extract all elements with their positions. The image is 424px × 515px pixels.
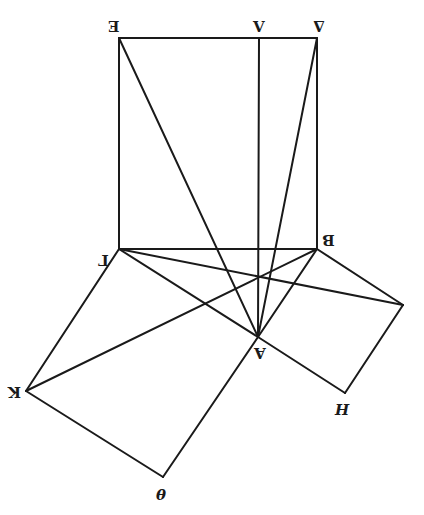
label-K: K xyxy=(8,384,21,399)
segment-B-K xyxy=(26,249,317,391)
label-Theta: θ xyxy=(156,488,166,503)
segment-L-A xyxy=(258,38,259,337)
label-E: E xyxy=(108,18,119,33)
segment-G-K xyxy=(26,249,119,391)
segment-Z-H xyxy=(345,305,403,393)
label-Lambda: Λ xyxy=(253,18,265,33)
label-H: H xyxy=(335,403,349,418)
segment-K-Th xyxy=(26,391,163,477)
segment-Th-A xyxy=(163,337,258,477)
label-Gamma: Γ xyxy=(98,252,109,267)
label-B: B xyxy=(322,232,335,247)
label-A: A xyxy=(254,345,266,360)
pythagorean-proof-diagram xyxy=(0,0,424,515)
label-Delta: Δ xyxy=(313,18,325,33)
segment-H-A xyxy=(258,337,345,393)
